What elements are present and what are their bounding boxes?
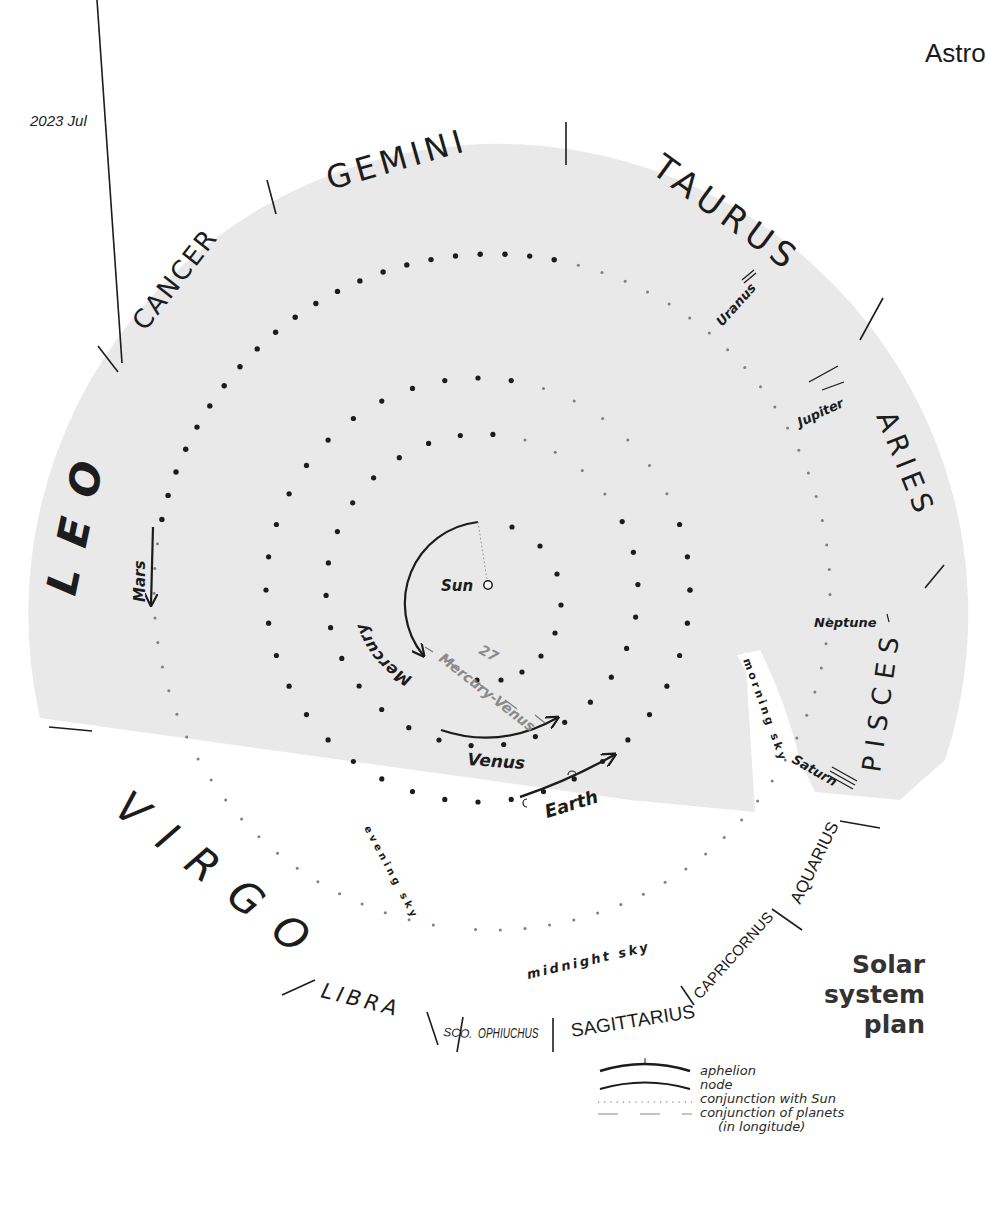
sun-symbol <box>484 581 492 589</box>
neptune-label: Neptune <box>814 615 877 630</box>
legend-label: aphelion <box>700 1063 756 1078</box>
title-line-1: Solar <box>824 950 925 980</box>
title-line-2: system <box>824 980 925 1010</box>
diagram-title: Solar system plan <box>824 950 925 1040</box>
mars-label: Mars <box>131 561 149 602</box>
legend-label: (in longitude) <box>718 1119 805 1134</box>
zodiac-aquarius: AQUARIUS <box>787 819 843 907</box>
zodiac-virgo: VIRGO <box>106 781 338 977</box>
earth-node-marker <box>523 799 527 807</box>
sun-label: Sun <box>441 577 473 595</box>
zodiac-ophiuchus: OPHIUCHUS <box>478 1025 538 1041</box>
legend-longitude-note: (in longitude) <box>590 1122 890 1138</box>
midnight-sky-label: midnight sky <box>525 939 652 982</box>
zodiac-capricornus: CAPRICORNUS <box>690 908 777 1002</box>
zodiac-scorpius: SCO. <box>443 1025 473 1041</box>
legend-label: node <box>700 1077 732 1092</box>
zodiac-sagittarius: SAGITTARIUS <box>569 1001 696 1041</box>
zodiac-libra: LIBRA <box>319 979 404 1022</box>
venus-label: Venus <box>467 749 526 773</box>
legend-label: conjunction with Sun <box>700 1091 836 1106</box>
daytime-sky-region <box>28 144 968 812</box>
title-line-3: plan <box>824 1010 925 1040</box>
legend-label: conjunction of planets <box>700 1105 844 1120</box>
evening-sky-label: evening sky <box>362 824 421 922</box>
